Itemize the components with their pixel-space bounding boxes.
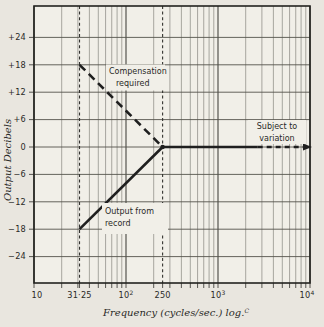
x-tick-10000: 104: [300, 289, 315, 300]
x-tick-100: 102: [119, 289, 134, 300]
turnover-junction-point: [160, 145, 165, 150]
y-axis-title: Output Decibels: [2, 119, 13, 201]
x-tick-10: 10: [32, 290, 43, 300]
y-tick-24: +24: [8, 32, 26, 42]
x-tick-1000: 103: [211, 289, 226, 300]
y-tick--6: −6: [14, 169, 26, 179]
y-tick-6: +6: [14, 114, 26, 124]
frequency-response-chart: CompensationrequiredOutput fromrecordSub…: [0, 0, 324, 327]
x-axis-title: Frequency (cycles/sec.) log.C: [102, 307, 249, 318]
y-tick-0: 0: [21, 142, 26, 152]
plot-area: [34, 6, 310, 283]
y-tick-12: +12: [8, 87, 26, 97]
x-tick-250: 250: [154, 290, 170, 300]
y-tick--18: −18: [8, 224, 26, 234]
x-tick-31.25: 31·25: [67, 290, 91, 300]
y-tick-18: +18: [8, 60, 26, 70]
scanned-chart-page: CompensationrequiredOutput fromrecordSub…: [0, 0, 324, 327]
y-tick--24: −24: [8, 251, 26, 261]
